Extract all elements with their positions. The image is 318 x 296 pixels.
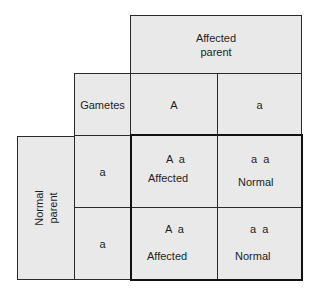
top-gamete-1-label: A [170,98,177,112]
offspring-genotype: A a [165,223,184,235]
affected-parent-label-2: parent [200,45,231,59]
offspring-genotype: A a [166,153,185,165]
top-gamete-2-label: a [256,98,262,112]
gametes-label-cell: Gametes [74,73,131,136]
normal-parent-label-2: parent [46,190,60,225]
offspring-cell-2-2: a a Normal [217,207,302,280]
offspring-phenotype: Affected [148,172,188,184]
top-gamete-2: a [217,73,302,136]
affected-parent-header: Affected parent [130,15,302,74]
side-gamete-2: a [74,207,131,280]
normal-parent-label-1: Normal [32,190,46,225]
offspring-genotype: a a [251,153,269,165]
offspring-phenotype: Affected [147,250,187,262]
normal-parent-header: Normal parent [17,136,75,280]
offspring-phenotype: Normal [235,250,270,262]
offspring-genotype: a a [250,223,268,235]
affected-parent-label-1: Affected [196,31,236,45]
top-gamete-1: A [130,73,218,136]
side-gamete-1: a [74,135,131,208]
normal-parent-label: Normal parent [32,190,60,225]
offspring-cell-2-1: A a Affected [130,207,218,280]
offspring-cell-1-1: A a Affected [130,135,218,208]
offspring-phenotype: Normal [238,176,273,188]
side-gamete-2-label: a [99,237,105,251]
offspring-cell-1-2: a a Normal [217,135,302,208]
gametes-label: Gametes [80,98,125,112]
side-gamete-1-label: a [99,165,105,179]
